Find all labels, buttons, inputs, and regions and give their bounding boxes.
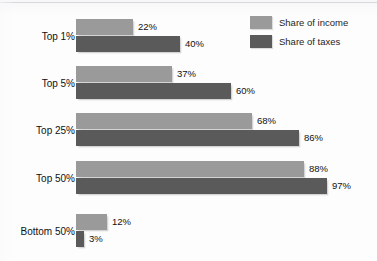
bar-taxes xyxy=(76,130,299,146)
bar-value-label: 12% xyxy=(112,214,131,230)
bar-row-income: 68% xyxy=(76,113,276,129)
category-label: Top 1% xyxy=(0,31,75,42)
bar-value-label: 22% xyxy=(138,19,157,35)
bar-row-income: 37% xyxy=(76,66,196,82)
bar-value-label: 88% xyxy=(309,161,328,177)
bar-group: Top 5% 37% 60% xyxy=(0,66,377,104)
bar-taxes xyxy=(76,231,84,247)
bar-row-taxes: 60% xyxy=(76,83,255,99)
bar-group: Top 50% 88% 97% xyxy=(0,161,377,199)
bar-row-income: 12% xyxy=(76,214,131,230)
category-label: Bottom 50% xyxy=(0,226,75,237)
bar-income xyxy=(76,66,172,82)
bar-income xyxy=(76,113,252,129)
bar-value-label: 60% xyxy=(236,83,255,99)
bar-value-label: 40% xyxy=(185,36,204,52)
bar-row-taxes: 86% xyxy=(76,130,323,146)
category-label: Top 25% xyxy=(0,125,75,136)
bar-row-income: 88% xyxy=(76,161,328,177)
bar-value-label: 37% xyxy=(177,66,196,82)
bar-chart: Share of income Share of taxes Top 1% 22… xyxy=(0,0,377,261)
category-label: Top 50% xyxy=(0,173,75,184)
bar-group: Bottom 50% 12% 3% xyxy=(0,214,377,252)
bar-row-income: 22% xyxy=(76,19,157,35)
bar-row-taxes: 3% xyxy=(76,231,103,247)
bar-value-label: 3% xyxy=(89,231,103,247)
bar-taxes xyxy=(76,83,231,99)
bar-value-label: 68% xyxy=(257,113,276,129)
bar-taxes xyxy=(76,178,327,194)
bar-row-taxes: 40% xyxy=(76,36,204,52)
bar-value-label: 86% xyxy=(304,130,323,146)
bar-row-taxes: 97% xyxy=(76,178,351,194)
bar-income xyxy=(76,161,304,177)
bar-group: Top 1% 22% 40% xyxy=(0,19,377,57)
plot-area: Top 1% 22% 40% Top 5% 37% 60% To xyxy=(0,0,377,261)
category-label: Top 5% xyxy=(0,78,75,89)
bar-income xyxy=(76,19,133,35)
bar-value-label: 97% xyxy=(332,178,351,194)
bar-taxes xyxy=(76,36,180,52)
bar-income xyxy=(76,214,107,230)
bar-group: Top 25% 68% 86% xyxy=(0,113,377,151)
